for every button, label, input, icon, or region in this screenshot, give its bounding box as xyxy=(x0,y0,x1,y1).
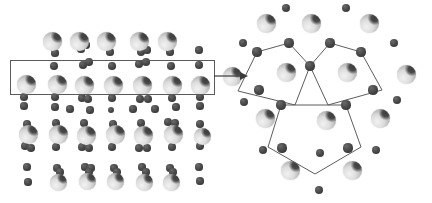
arrow-head xyxy=(240,72,248,80)
atomic-structure-figure xyxy=(0,0,432,203)
transition-arrow xyxy=(0,0,432,203)
